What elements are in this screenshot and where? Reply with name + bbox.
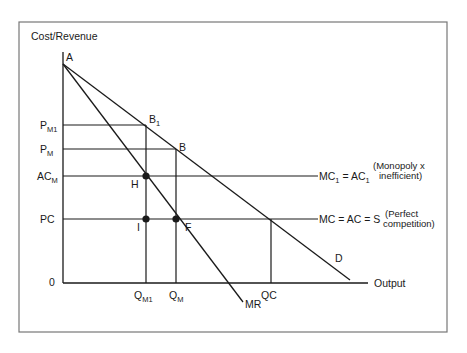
mc1-ac1-label: MC1 = AC1: [319, 170, 370, 185]
point-h-dot: [142, 172, 149, 179]
marginal-revenue-curve: [63, 64, 243, 302]
acm-label: ACM: [37, 170, 58, 185]
mr-label: MR: [245, 298, 262, 310]
pm-label: PM: [40, 143, 53, 158]
point-a-label: A: [66, 51, 73, 63]
point-b-label: B: [179, 141, 186, 153]
qm-label: QM: [169, 289, 183, 304]
monopoly-x-inefficiency-diagram: Cost/Revenue Output 0 A B1 B H I F PM1 P…: [0, 0, 467, 353]
point-h-label: H: [131, 178, 139, 190]
demand-curve: [63, 64, 350, 280]
mc-ac-s-label: MC = AC = S: [319, 213, 380, 225]
monopoly-note-line2: inefficient): [379, 170, 422, 181]
qc-label: QC: [261, 289, 277, 301]
perfect-competition-note-line2: competition): [383, 218, 435, 229]
demand-label: D: [335, 252, 343, 264]
origin-label: 0: [49, 276, 55, 288]
y-axis-label: Cost/Revenue: [31, 30, 98, 42]
pc-label: PC: [40, 213, 55, 225]
point-f-dot: [172, 215, 179, 222]
point-f-label: F: [185, 221, 191, 233]
x-axis-label: Output: [374, 277, 406, 289]
qm1-label: QM1: [134, 289, 153, 304]
point-i-label: I: [137, 221, 140, 233]
point-i-dot: [142, 215, 149, 222]
point-b1-label: B1: [149, 113, 160, 128]
pm1-label: PM1: [40, 119, 57, 134]
